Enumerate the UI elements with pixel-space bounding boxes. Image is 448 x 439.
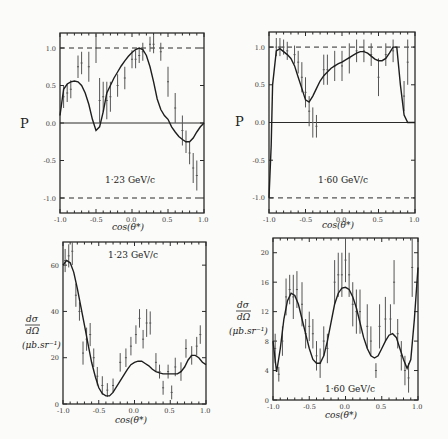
y-tick-label: 60: [51, 262, 59, 270]
y-tick-label: -0.5: [252, 157, 265, 165]
y-axis-label-p-right: P: [235, 114, 244, 129]
x-tick-label: 1.0: [412, 403, 422, 411]
x-tick-label: 1.0: [200, 407, 210, 415]
y-tick-label: 0: [55, 401, 59, 409]
y-axis-label-dsigma-num-left: dσ: [26, 314, 39, 324]
fit-curve: [63, 261, 206, 396]
y-tick-label: 40: [51, 308, 59, 316]
fit-curve: [273, 268, 418, 373]
y-tick-label: 12: [261, 308, 269, 316]
x-axis-label-top-right: cos(θ*): [322, 220, 355, 230]
y-axis-units-left: (μb.sr⁻¹): [22, 340, 61, 350]
y-axis-label-dsigma-den-right: dΩ: [237, 312, 251, 322]
x-axis-label-top-left: cos(θ*): [112, 222, 145, 232]
x-tick-label: 1.0: [198, 216, 208, 224]
y-axis-units-right: (μb.sr⁻¹): [229, 326, 268, 336]
y-tick-label: -0.5: [43, 157, 56, 165]
y-tick-label: 0.5: [255, 81, 265, 89]
x-tick-label: -1.0: [263, 216, 276, 224]
y-tick-label: 20: [51, 354, 59, 362]
x-tick-label: 0.5: [376, 403, 386, 411]
y-axis-label-dsigma-num-right: dσ: [237, 300, 250, 310]
momentum-annotation: 1·60 GeV/c: [318, 175, 368, 185]
y-tick-label: 4: [265, 367, 269, 375]
x-tick-label: 0.5: [164, 407, 174, 415]
cross-section-plot-1-23: -1.0-0.50.00.51.060402001·23 GeV/c: [51, 242, 211, 415]
momentum-annotation: 1·23 GeV/c: [108, 250, 158, 260]
y-tick-label: 20: [261, 249, 269, 257]
y-tick-label: 0.0: [255, 119, 265, 127]
x-axis-label-bottom-right: cos(θ*): [325, 410, 358, 420]
x-tick-label: -0.5: [93, 407, 106, 415]
x-tick-label: -0.5: [300, 216, 313, 224]
momentum-annotation: 1·23 GeV/c: [105, 175, 155, 185]
y-tick-label: 16: [261, 279, 269, 287]
figure-canvas: -1.0-0.50.00.51.01.00.50.0-0.5-1.01·23 G…: [0, 0, 448, 439]
x-axis-label-bottom-left: cos(θ*): [115, 415, 148, 425]
x-tick-label: 0.5: [373, 216, 383, 224]
x-tick-label: -0.5: [303, 403, 316, 411]
y-tick-label: 8: [265, 338, 269, 346]
y-tick-label: 0.5: [46, 82, 56, 90]
polarization-plot-1-23: -1.0-0.50.00.51.01.00.50.0-0.5-1.01·23 G…: [43, 33, 208, 224]
y-tick-label: -1.0: [252, 194, 265, 202]
polarization-plot-1-60: -1.0-0.50.00.51.01.00.50.0-0.5-1.01·60 G…: [252, 32, 419, 224]
x-tick-label: -1.0: [54, 216, 67, 224]
momentum-annotation: 1·60 GeV/c: [325, 384, 375, 394]
x-tick-label: -0.5: [90, 216, 103, 224]
y-tick-label: 1.0: [46, 45, 56, 53]
y-axis-label-p-left: P: [20, 116, 29, 131]
y-tick-label: 0: [265, 397, 269, 405]
y-axis-label-dsigma-den-left: dΩ: [26, 326, 40, 336]
x-tick-label: 0.0: [129, 407, 139, 415]
x-tick-label: 1.0: [409, 216, 419, 224]
cross-section-plot-1-60: -1.0-0.50.00.51.02016128401·60 GeV/c: [261, 238, 423, 411]
x-tick-label: 0.5: [162, 216, 172, 224]
y-tick-label: 0.0: [46, 120, 56, 128]
y-tick-label: -1.0: [43, 195, 56, 203]
y-tick-label: 1.0: [255, 44, 265, 52]
